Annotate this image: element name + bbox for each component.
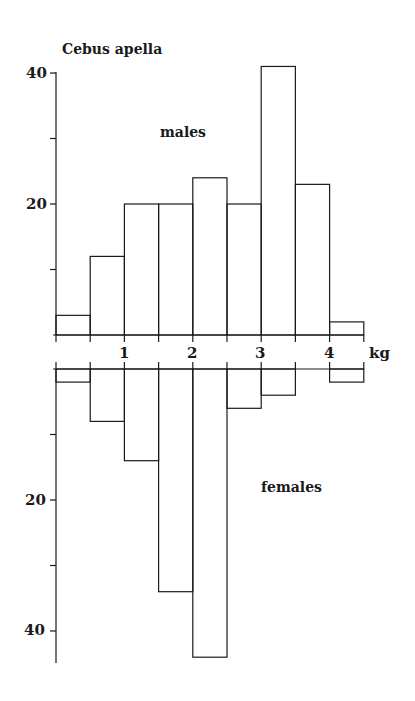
female-bar bbox=[124, 369, 158, 461]
y-tick-label-bottom-40: 40 bbox=[24, 621, 45, 639]
male-bar bbox=[261, 66, 295, 335]
y-tick-label-top-40: 40 bbox=[26, 64, 47, 82]
y-tick-label-top-20: 20 bbox=[26, 195, 47, 213]
x-tick-label-1: 1 bbox=[119, 344, 129, 362]
female-bar bbox=[261, 369, 295, 395]
male-bar bbox=[330, 322, 364, 335]
females-histogram bbox=[56, 369, 364, 657]
female-bar bbox=[227, 369, 261, 408]
male-bar bbox=[124, 204, 158, 335]
axes bbox=[50, 72, 364, 663]
female-bar bbox=[159, 369, 193, 592]
x-tick-label-3: 3 bbox=[255, 344, 265, 362]
male-bar bbox=[295, 184, 329, 335]
male-bar bbox=[159, 204, 193, 335]
males-histogram bbox=[56, 66, 364, 335]
x-tick-label-4: 4 bbox=[324, 344, 334, 362]
chart-title: Cebus apella bbox=[62, 41, 162, 57]
x-tick-label-2: 2 bbox=[187, 344, 197, 362]
male-bar bbox=[56, 315, 90, 335]
female-bar bbox=[90, 369, 124, 421]
x-axis-unit-label: kg bbox=[369, 344, 390, 362]
male-bar bbox=[193, 178, 227, 335]
y-tick-label-bottom-20: 20 bbox=[25, 491, 46, 509]
female-bar bbox=[193, 369, 227, 657]
male-bar bbox=[90, 256, 124, 335]
histogram-figure: Cebus apella males females 40 20 20 40 1… bbox=[0, 0, 415, 701]
males-label: males bbox=[160, 124, 206, 140]
male-bar bbox=[227, 204, 261, 335]
females-label: females bbox=[261, 479, 322, 495]
female-bar bbox=[330, 369, 364, 382]
female-bar bbox=[56, 369, 90, 382]
